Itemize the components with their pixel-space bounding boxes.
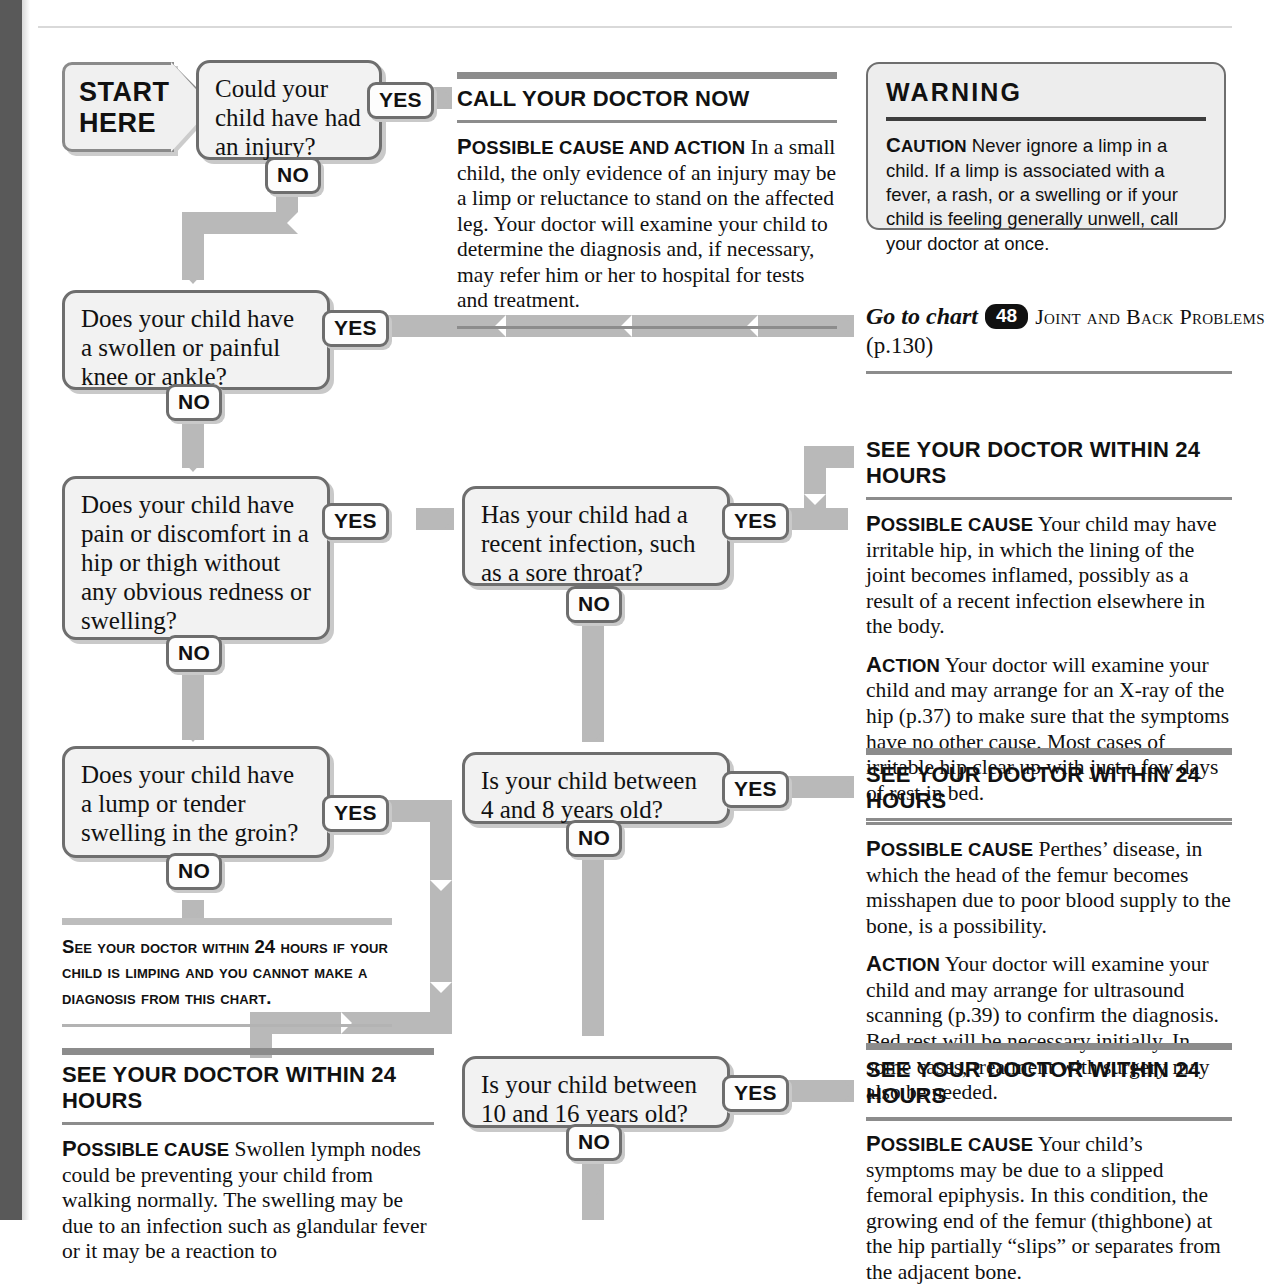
no-label: NO: [178, 641, 210, 664]
limp-rule-bottom: [62, 1024, 392, 1027]
question-hip-yes-tab[interactable]: YES: [322, 503, 389, 540]
question-infection-text: Has your child had a recent infection, s…: [481, 501, 696, 586]
question-knee-text: Does your child have a swollen or painfu…: [81, 305, 294, 390]
panel-body: In a small child, the only evidence of a…: [457, 135, 836, 312]
question-knee-no-tab[interactable]: NO: [166, 384, 222, 421]
connector-age10to16-yes-arrowhead: [842, 1080, 854, 1102]
connector-age4to8-yes-arrowhead: [842, 776, 854, 798]
panel-paragraph: POSSIBLE CAUSE Swollen lymph nodes could…: [62, 1136, 434, 1265]
panel-heading: SEE YOUR DOCTOR WITHIN 24 HOURS: [866, 437, 1232, 489]
connector-groin-yes-chev2: [430, 982, 452, 993]
panel-lead: POSSIBLE CAUSE: [866, 839, 1033, 860]
connector-infection-yes-chevron: [804, 494, 826, 505]
connector-injury-yes-arrowhead: [440, 87, 452, 109]
connector-infection-yes-arrowhead: [842, 446, 854, 468]
start-here-line2: HERE: [79, 108, 171, 139]
question-injury[interactable]: Could your child have had an injury?: [196, 60, 382, 160]
yes-label: YES: [734, 509, 777, 532]
warning-body: CAUTION Never ignore a limp in a child. …: [886, 132, 1206, 256]
connector-groin-yes-vert: [430, 800, 452, 1034]
question-injury-no-tab[interactable]: NO: [265, 157, 321, 194]
lead-rest: CTION: [882, 954, 940, 975]
panel-paragraph: POSSIBLE CAUSE Your child’s symptoms may…: [866, 1131, 1232, 1285]
question-knee[interactable]: Does your child have a swollen or painfu…: [62, 290, 330, 390]
yes-label: YES: [379, 88, 422, 111]
connector-hip-no-arrowhead: [182, 730, 204, 742]
panel-lead: ACTION: [866, 655, 940, 676]
lead-rest: OSSIBLE CAUSE AND ACTION: [472, 137, 745, 158]
warning-lead: CAUTION: [886, 137, 967, 156]
no-label: NO: [178, 390, 210, 413]
panel-lead: ACTION: [866, 954, 940, 975]
panel-rule-top: [866, 1043, 1232, 1050]
goto-chart-prefix: Go to chart: [866, 303, 978, 329]
yes-label: YES: [734, 1081, 777, 1104]
question-hip-no-tab[interactable]: NO: [166, 635, 222, 672]
goto-chart-number-badge: 48: [985, 304, 1028, 329]
page-gutter-edge: [22, 0, 30, 1220]
question-groin-yes-tab[interactable]: YES: [322, 795, 389, 832]
question-infection[interactable]: Has your child had a recent infection, s…: [462, 486, 730, 586]
warning-heading: WARNING: [886, 78, 1206, 107]
no-label: NO: [277, 163, 309, 186]
connector-age4to8-no-arrowhead: [582, 1024, 604, 1036]
panel-paragraph: POSSIBLE CAUSE AND ACTION In a small chi…: [457, 134, 837, 314]
question-groin[interactable]: Does your child have a lump or tender sw…: [62, 746, 330, 858]
yes-label: YES: [334, 316, 377, 339]
connector-age10to16-no-arrowhead: [582, 1186, 604, 1198]
panel-heading: SEE YOUR DOCTOR WITHIN 24 HOURS: [866, 1057, 1232, 1109]
lead-capital: A: [866, 652, 882, 677]
panel-heading: SEE YOUR DOCTOR WITHIN 24 HOURS: [62, 1062, 434, 1114]
panel-heading: CALL YOUR DOCTOR NOW: [457, 86, 837, 112]
cut-off-header-text: [230, 0, 990, 4]
question-injury-yes-tab[interactable]: YES: [367, 82, 434, 119]
question-age4to8-yes-tab[interactable]: YES: [722, 771, 789, 808]
question-infection-no-tab[interactable]: NO: [566, 586, 622, 623]
panel-call-doctor-now: CALL YOUR DOCTOR NOW POSSIBLE CAUSE AND …: [457, 72, 837, 329]
connector-age4to8-no-vert: [582, 848, 604, 1036]
question-knee-yes-tab[interactable]: YES: [322, 310, 389, 347]
no-label: NO: [578, 1130, 610, 1153]
goto-chart-reference[interactable]: Go to chart48Joint and Back Problems (p.…: [866, 303, 1232, 374]
panel-rule-mid: [866, 497, 1232, 500]
connector-hip-yes-arrowhead: [442, 508, 454, 530]
no-label: NO: [578, 826, 610, 849]
limp-note-text: See your doctor within 24 hours if your …: [62, 934, 392, 1010]
panel-paragraph: POSSIBLE CAUSE Perthes’ disease, in whic…: [866, 836, 1232, 939]
panel-rule-top: [62, 1048, 434, 1055]
lead-rest: CTION: [882, 655, 940, 676]
start-here-marker: START HERE: [62, 62, 174, 152]
lead-rest: OSSIBLE CAUSE: [77, 1139, 229, 1160]
lead-capital: A: [866, 951, 882, 976]
panel-paragraph: POSSIBLE CAUSE Your child may have irrit…: [866, 511, 1232, 640]
question-age4to8-no-tab[interactable]: NO: [566, 820, 622, 857]
top-horizontal-rule: [38, 26, 1232, 28]
question-infection-yes-tab[interactable]: YES: [722, 503, 789, 540]
connector-infection-no-arrowhead: [582, 730, 604, 742]
lead-capital: P: [866, 511, 881, 536]
question-hip-text: Does your child have pain or discomfort …: [81, 491, 311, 634]
question-hip[interactable]: Does your child have pain or discomfort …: [62, 476, 330, 640]
question-age10to16-text: Is your child between 10 and 16 years ol…: [481, 1071, 697, 1127]
question-injury-text: Could your child have had an injury?: [215, 75, 361, 160]
goto-chart-name: Joint and Back Problems: [1035, 304, 1265, 329]
panel-lead: POSSIBLE CAUSE: [62, 1139, 229, 1160]
panel-rule-mid: [866, 822, 1232, 825]
yes-label: YES: [734, 777, 777, 800]
no-label: NO: [178, 859, 210, 882]
panel-lead: POSSIBLE CAUSE: [866, 1134, 1033, 1155]
question-age10to16[interactable]: Is your child between 10 and 16 years ol…: [462, 1056, 730, 1128]
question-age10to16-no-tab[interactable]: NO: [566, 1124, 622, 1161]
question-groin-no-tab[interactable]: NO: [166, 853, 222, 890]
lead-capital: P: [866, 1131, 881, 1156]
panel-lead: POSSIBLE CAUSE: [866, 514, 1033, 535]
panel-lead: POSSIBLE CAUSE AND ACTION: [457, 137, 745, 158]
connector-injury-no-chevron: [287, 212, 298, 234]
panel-heading: SEE YOUR DOCTOR WITHIN 24 HOURS: [866, 762, 1232, 814]
question-age10to16-yes-tab[interactable]: YES: [722, 1075, 789, 1112]
question-age4to8[interactable]: Is your child between 4 and 8 years old?: [462, 752, 730, 824]
panel-rule-bottom: [457, 326, 837, 329]
panel-rule-mid: [62, 1122, 434, 1125]
lead-rest: OSSIBLE CAUSE: [881, 514, 1033, 535]
connector-injury-no-vert2: [182, 212, 204, 280]
